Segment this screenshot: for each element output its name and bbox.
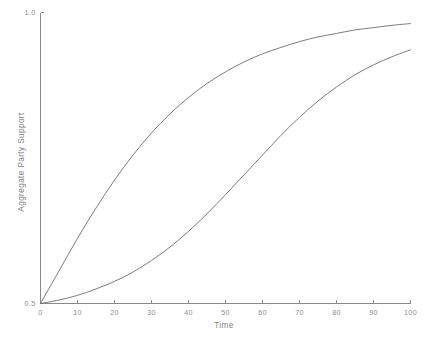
chart-figure: 0102030405060708090100 0.51.0 Time Aggre… [0,0,424,340]
chart-series-curves [41,24,411,304]
x-axis-title: Time [214,321,234,330]
x-tick-label: 30 [147,308,156,317]
x-tick-label: 50 [221,308,230,317]
x-tick-label: 40 [184,308,193,317]
series-line-fast-adopting-party [41,24,411,304]
x-tick-label: 100 [404,308,417,317]
series-line-slow-adopting-party [41,50,411,304]
x-tick-label: 70 [295,308,304,317]
y-tick-labels: 0.51.0 [25,8,36,308]
x-tick-label: 10 [73,308,82,317]
x-tick-label: 90 [369,308,378,317]
chart-axes [41,13,411,304]
x-tick-label: 0 [38,308,42,317]
x-tick-label: 20 [110,308,119,317]
line-chart-plot: 0102030405060708090100 0.51.0 Time Aggre… [0,0,424,340]
y-tick-label: 1.0 [25,8,36,17]
x-tick-label: 60 [258,308,267,317]
y-axis-title: Aggregate Party Support [17,112,26,212]
y-tick-label: 0.5 [25,299,36,308]
x-tick-labels: 0102030405060708090100 [38,308,417,317]
chart-tick-marks [41,13,411,304]
x-tick-label: 80 [332,308,341,317]
